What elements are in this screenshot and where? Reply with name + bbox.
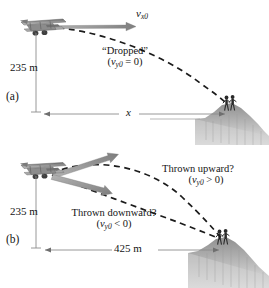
height-label-a: 235 m: [10, 62, 38, 74]
panel-a-graphics: [0, 0, 269, 145]
dropped-note: “Dropped” (vy0 = 0): [84, 45, 166, 68]
panel-b-id: (b): [6, 233, 19, 245]
height-label-b: 235 m: [10, 206, 38, 218]
velocity-arrow-down: [51, 175, 112, 196]
panel-a-id: (a): [6, 90, 19, 102]
cliff-icon: [188, 237, 269, 288]
cliff-icon: [150, 103, 269, 145]
panel-a: vx0 “Dropped” (vy0 = 0) 235 m (a) x: [0, 0, 269, 145]
biplane-icon: [20, 19, 66, 36]
thrown-downward-line1: Thrown downward?: [72, 207, 157, 218]
velocity-label-vx0: vx0: [136, 8, 148, 20]
thrown-upward-line1: Thrown upward?: [162, 163, 234, 174]
thrown-upward-note: Thrown upward? (vy0 > 0): [162, 163, 262, 186]
projectile-motion-figure: vx0 “Dropped” (vy0 = 0) 235 m (a) x: [0, 0, 269, 288]
panel-b: Thrown upward? (vy0 > 0) Thrown downward…: [0, 145, 269, 288]
range-dimension-x: [44, 112, 225, 117]
range-label-x: x: [126, 107, 131, 119]
dropped-note-line2: (vy0 = 0): [84, 56, 166, 67]
range-label-425m: 425 m: [114, 243, 142, 255]
thrown-downward-note: Thrown downward? (vy0 < 0): [58, 207, 170, 230]
dropped-note-line1: “Dropped”: [102, 45, 148, 56]
thrown-upward-line2: (vy0 > 0): [162, 174, 262, 185]
thrown-downward-line2: (vy0 < 0): [58, 218, 170, 229]
